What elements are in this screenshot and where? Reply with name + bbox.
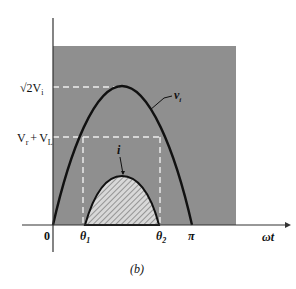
figure-caption: (b) (130, 262, 144, 276)
x-axis-label: ωt (262, 230, 275, 244)
theta1-label: θ1 (80, 229, 90, 245)
theta2-label: θ2 (156, 229, 166, 245)
peak-label: √2Vi (20, 81, 44, 97)
threshold-label: Vr+VL (17, 131, 53, 147)
pi-label: π (188, 229, 195, 243)
diode-waveform-diagram: √2Vi Vr+VL vi i 0 θ1 θ2 π ωt (b) (0, 0, 296, 289)
x-axis-arrow-icon (285, 222, 291, 228)
origin-label: 0 (44, 229, 50, 243)
